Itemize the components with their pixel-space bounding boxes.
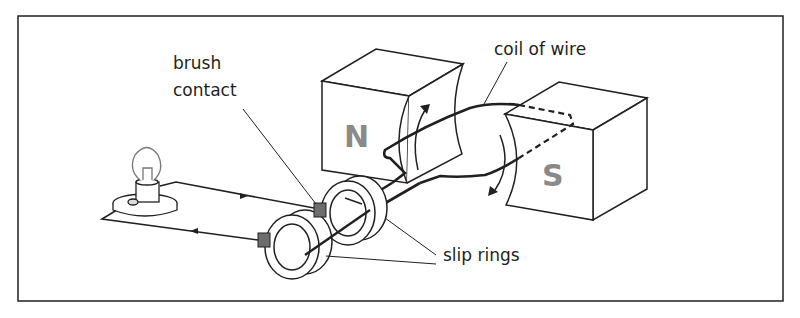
current-arrow-bottom-icon	[190, 228, 198, 234]
current-arrow-top-icon	[240, 193, 248, 199]
coil-leader	[484, 62, 507, 104]
brush-contact-back	[314, 203, 326, 217]
brush-contact-front	[258, 233, 270, 247]
lamp	[113, 148, 177, 217]
brush-contact-label-line2: contact	[173, 80, 237, 100]
slip-rings-label: slip rings	[443, 245, 520, 265]
north-magnet	[322, 49, 463, 183]
north-pole-label: N	[344, 119, 369, 154]
rotation-arrow-down-icon	[495, 135, 505, 190]
brush-contact-leader	[243, 109, 316, 204]
coil-label: coil of wire	[494, 39, 586, 59]
diagram-frame: N S	[0, 0, 800, 318]
brush-contact-label-line1: brush	[173, 53, 221, 73]
south-magnet	[505, 82, 647, 220]
south-pole-label: S	[542, 158, 564, 193]
ac-generator-diagram: N S	[0, 0, 800, 318]
